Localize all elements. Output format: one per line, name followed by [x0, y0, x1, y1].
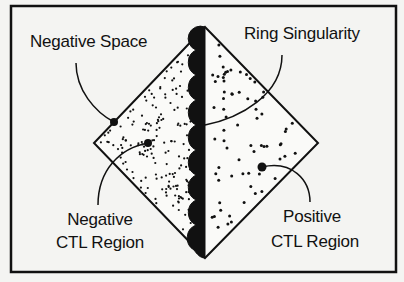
label-negative-space: Negative Space	[30, 32, 147, 52]
label-negative-ctl-line1: Negative	[55, 210, 145, 230]
pointer-dot-positive-ctl	[258, 163, 267, 172]
leader-negative-space	[76, 63, 114, 122]
label-negative-ctl-line2: CTL Region	[35, 233, 165, 253]
pointer-dot-negative-space	[110, 118, 118, 126]
label-positive-ctl-line1: Positive	[272, 207, 352, 227]
diagram-canvas: Negative Space Ring Singularity Negative…	[0, 0, 404, 282]
label-positive-ctl-line2: CTL Region	[250, 232, 380, 252]
pointer-dot-negative-ctl	[144, 139, 152, 147]
label-ring-singularity: Ring Singularity	[244, 24, 360, 44]
